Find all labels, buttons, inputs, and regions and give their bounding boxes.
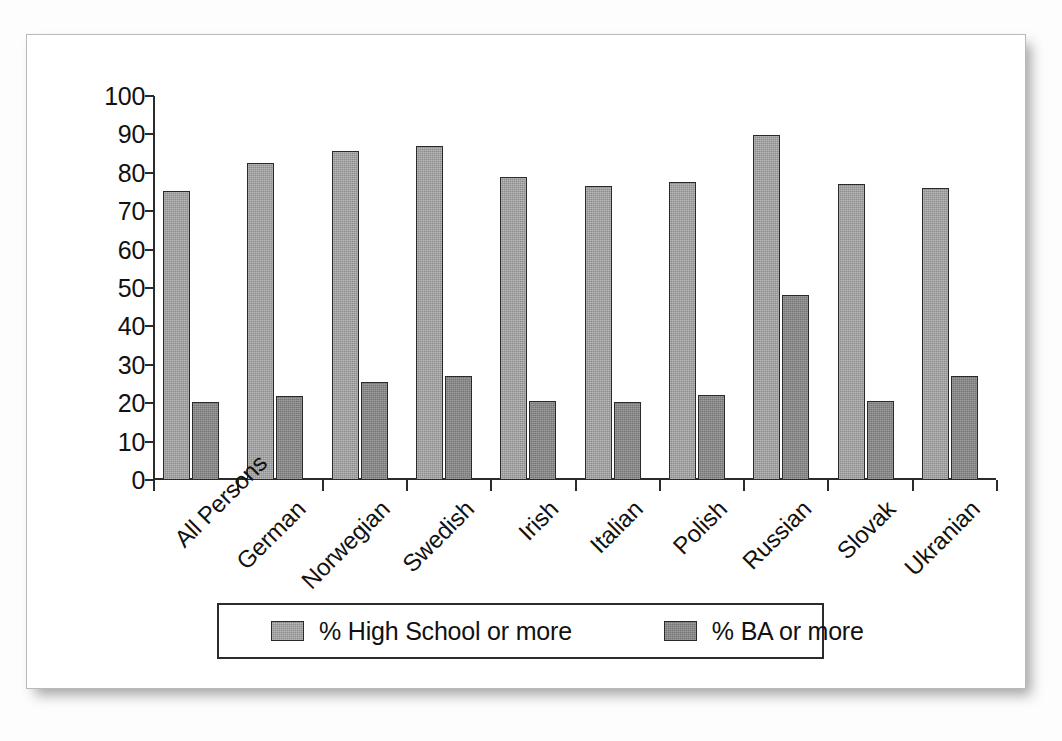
bar-group	[153, 96, 237, 480]
bar	[500, 177, 527, 480]
bar-group	[406, 96, 490, 480]
y-axis-tick-label: 50	[87, 276, 145, 301]
bar	[922, 188, 949, 480]
y-axis-tick-label: 20	[87, 391, 145, 416]
bar	[585, 186, 612, 480]
legend-entry-ba: % BA or more	[664, 617, 864, 646]
y-axis-tick-label: 90	[87, 122, 145, 147]
figure-frame: 0102030405060708090100 All PersonsGerman…	[0, 0, 1062, 741]
bar	[838, 184, 865, 480]
bar	[614, 402, 641, 480]
bar-group	[743, 96, 827, 480]
bar-group	[237, 96, 321, 480]
y-axis-tick-label: 60	[87, 237, 145, 262]
y-axis-tick-label: 40	[87, 314, 145, 339]
bar-group	[322, 96, 406, 480]
bar	[276, 396, 303, 480]
bar-group	[827, 96, 911, 480]
y-axis-tick-label: 70	[87, 199, 145, 224]
bar	[332, 151, 359, 480]
bar	[192, 402, 219, 480]
bar-series-layer	[153, 96, 996, 480]
bar-group	[659, 96, 743, 480]
x-axis-tick-mark	[659, 480, 661, 491]
x-axis-tick-mark	[322, 480, 324, 491]
bar	[416, 146, 443, 480]
bar-group	[575, 96, 659, 480]
legend-label-high-school: % High School or more	[319, 617, 572, 646]
x-axis-tick-mark	[153, 480, 155, 491]
bar	[698, 395, 725, 480]
x-axis-tick-mark	[743, 480, 745, 491]
legend-swatch-ba	[664, 621, 697, 641]
chart-card: 0102030405060708090100 All PersonsGerman…	[26, 34, 1026, 689]
bar	[753, 135, 780, 480]
x-axis-tick-mark	[575, 480, 577, 491]
y-axis-tick-label: 80	[87, 160, 145, 185]
bar	[951, 376, 978, 480]
bar	[529, 401, 556, 480]
legend-entry-high-school: % High School or more	[271, 617, 572, 646]
y-axis-tick-label: 0	[87, 468, 145, 493]
y-axis-tick-label: 30	[87, 352, 145, 377]
chart-legend: % High School or more % BA or more	[217, 603, 824, 659]
bar	[669, 182, 696, 480]
x-axis-tick-mark	[406, 480, 408, 491]
y-axis-tick-labels: 0102030405060708090100	[83, 35, 145, 690]
y-axis-tick-label: 100	[87, 84, 145, 109]
bar	[445, 376, 472, 480]
x-axis-tick-mark	[490, 480, 492, 491]
legend-label-ba: % BA or more	[712, 617, 864, 646]
x-axis-tick-mark	[827, 480, 829, 491]
x-axis-tick-mark	[912, 480, 914, 491]
bar	[361, 382, 388, 480]
bar	[867, 401, 894, 480]
y-axis-tick-label: 10	[87, 429, 145, 454]
legend-swatch-high-school	[271, 621, 304, 641]
bar	[247, 163, 274, 480]
x-axis-tick-mark	[996, 480, 998, 491]
x-axis-category-label: All Persons	[169, 495, 227, 553]
x-axis-category-labels: All PersonsGermanNorwegianSwedishIrishIt…	[153, 495, 996, 615]
bar	[163, 191, 190, 480]
plot-area: 0102030405060708090100 All PersonsGerman…	[27, 35, 1027, 690]
bar	[782, 295, 809, 480]
bar-group	[490, 96, 574, 480]
bar-group	[912, 96, 996, 480]
